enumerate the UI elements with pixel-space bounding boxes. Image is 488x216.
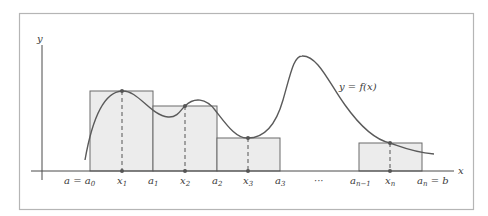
point-x2 <box>183 104 187 108</box>
curve-label: y = f(x) <box>338 81 377 92</box>
axis-point-x2 <box>183 169 187 173</box>
riemann-sum-diagram: y x y = f(x) a = a0 x1 a1 x2 a2 x3 a3 ··… <box>0 0 488 216</box>
point-x1 <box>120 89 124 93</box>
axis-point-xn <box>388 169 392 173</box>
tick-label-dots: ··· <box>314 175 324 186</box>
point-x3 <box>246 136 250 140</box>
point-xn <box>388 141 392 145</box>
x-axis-label: x <box>458 165 464 176</box>
axis-point-x1 <box>120 169 124 173</box>
y-axis-label: y <box>36 33 43 44</box>
axis-point-x3 <box>246 169 250 173</box>
